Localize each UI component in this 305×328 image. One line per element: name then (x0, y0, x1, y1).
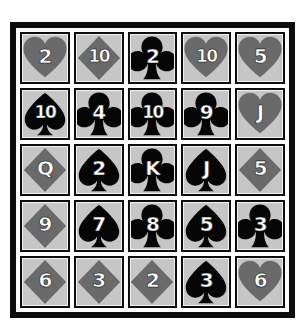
card-2-spades[interactable]: 2 (74, 144, 124, 196)
card-inner-border: 6 (22, 258, 68, 306)
card-rank-label: 4 (92, 102, 105, 122)
card-face: 7 (77, 203, 121, 249)
card-10-spades[interactable]: 10 (20, 88, 70, 140)
card-k-clubs[interactable]: K (128, 144, 178, 196)
card-2-diamonds[interactable]: 2 (128, 256, 178, 308)
card-inner-border: 2 (130, 34, 176, 82)
card-inner-border: 5 (237, 34, 283, 82)
card-rank-label: 2 (146, 46, 159, 66)
card-rank-label: Q (37, 158, 53, 178)
card-6-hearts[interactable]: 6 (235, 256, 285, 308)
card-inner-border: 3 (183, 258, 229, 306)
card-3-diamonds[interactable]: 3 (74, 256, 124, 308)
card-rank-label: 2 (146, 270, 159, 290)
card-board-inner: 2102105104109JQ2KJ59785363236 (16, 28, 289, 312)
card-9-diamonds[interactable]: 9 (20, 200, 70, 252)
card-rank-label: 2 (38, 46, 51, 66)
card-face: 10 (131, 91, 175, 137)
card-rank-label: 2 (92, 158, 105, 178)
card-inner-border: 2 (22, 34, 68, 82)
card-face: 9 (184, 91, 228, 137)
card-rank-label: 3 (92, 270, 105, 290)
card-face: 3 (184, 259, 228, 305)
card-10-diamonds[interactable]: 10 (74, 32, 124, 84)
card-5-spades[interactable]: 5 (181, 200, 231, 252)
card-inner-border: 10 (76, 34, 122, 82)
card-rank-label: 5 (254, 46, 267, 66)
card-face: 10 (23, 91, 67, 137)
card-rank-label: 8 (146, 214, 159, 234)
card-inner-border: J (237, 90, 283, 138)
card-rank-label: 7 (92, 214, 105, 234)
card-inner-border: 5 (237, 146, 283, 194)
card-face: Q (23, 147, 67, 193)
card-face: 6 (238, 259, 282, 305)
card-inner-border: 10 (183, 34, 229, 82)
card-face: 6 (23, 259, 67, 305)
card-3-clubs[interactable]: 3 (235, 200, 285, 252)
card-q-diamonds[interactable]: Q (20, 144, 70, 196)
card-inner-border: Q (22, 146, 68, 194)
card-face: 8 (131, 203, 175, 249)
card-face: 9 (23, 203, 67, 249)
card-face: 4 (77, 91, 121, 137)
card-inner-border: 3 (76, 258, 122, 306)
card-2-clubs[interactable]: 2 (128, 32, 178, 84)
card-rank-label: K (145, 158, 160, 178)
card-inner-border: 10 (22, 90, 68, 138)
card-inner-border: 9 (183, 90, 229, 138)
card-face: 5 (184, 203, 228, 249)
card-face: 2 (131, 259, 175, 305)
card-inner-border: 6 (237, 258, 283, 306)
card-rank-label: 9 (38, 214, 51, 234)
card-rank-label: J (257, 102, 263, 122)
card-2-hearts[interactable]: 2 (20, 32, 70, 84)
card-rank-label: J (203, 158, 209, 178)
card-8-clubs[interactable]: 8 (128, 200, 178, 252)
card-rank-label: 10 (142, 104, 163, 121)
card-rank-label: 6 (38, 270, 51, 290)
card-board-frame: 2102105104109JQ2KJ59785363236 (10, 22, 295, 318)
card-inner-border: K (130, 146, 176, 194)
card-rank-label: 9 (200, 102, 213, 122)
card-face: 2 (23, 35, 67, 81)
card-inner-border: 2 (130, 258, 176, 306)
card-inner-border: 10 (130, 90, 176, 138)
card-inner-border: 3 (237, 202, 283, 250)
card-face: J (238, 91, 282, 137)
card-3-spades[interactable]: 3 (181, 256, 231, 308)
card-j-hearts[interactable]: J (235, 88, 285, 140)
card-rank-label: 6 (254, 270, 267, 290)
card-face: 10 (77, 35, 121, 81)
card-rank-label: 5 (254, 158, 267, 178)
card-10-clubs[interactable]: 10 (128, 88, 178, 140)
card-face: J (184, 147, 228, 193)
card-face: 10 (184, 35, 228, 81)
card-j-spades[interactable]: J (181, 144, 231, 196)
card-inner-border: 7 (76, 202, 122, 250)
card-4-clubs[interactable]: 4 (74, 88, 124, 140)
card-inner-border: 5 (183, 202, 229, 250)
card-rank-label: 5 (200, 214, 213, 234)
card-inner-border: 9 (22, 202, 68, 250)
card-10-hearts[interactable]: 10 (181, 32, 231, 84)
card-rank-label: 10 (88, 48, 109, 65)
card-face: 5 (238, 147, 282, 193)
card-inner-border: 4 (76, 90, 122, 138)
card-9-clubs[interactable]: 9 (181, 88, 231, 140)
card-face: 3 (238, 203, 282, 249)
card-face: 2 (77, 147, 121, 193)
card-face: 2 (131, 35, 175, 81)
card-5-hearts[interactable]: 5 (235, 32, 285, 84)
card-inner-border: 2 (76, 146, 122, 194)
card-7-spades[interactable]: 7 (74, 200, 124, 252)
card-inner-border: J (183, 146, 229, 194)
card-face: K (131, 147, 175, 193)
card-5-diamonds[interactable]: 5 (235, 144, 285, 196)
card-rank-label: 3 (200, 270, 213, 290)
card-rank-label: 10 (35, 104, 56, 121)
card-face: 3 (77, 259, 121, 305)
card-6-diamonds[interactable]: 6 (20, 256, 70, 308)
card-rank-label: 3 (254, 214, 267, 234)
card-inner-border: 8 (130, 202, 176, 250)
